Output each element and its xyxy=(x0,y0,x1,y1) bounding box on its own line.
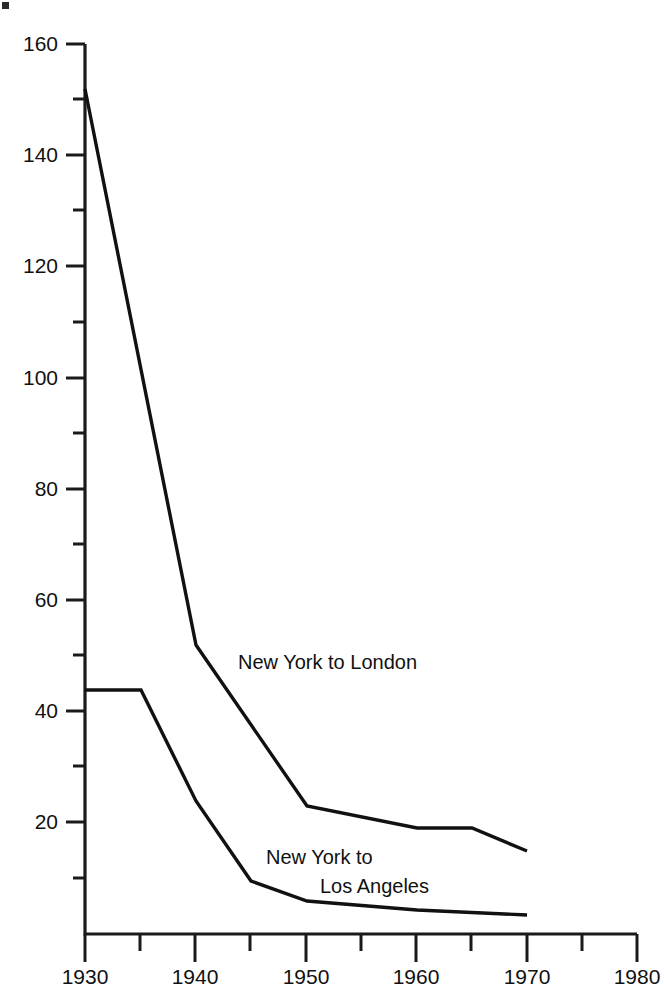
x-tick-label-1960: 1960 xyxy=(361,965,471,989)
x-tick-label-1930: 1930 xyxy=(30,965,140,989)
series-annotation-new-york-to-los-angeles-line2: Los Angeles xyxy=(320,872,429,901)
y-tick-label-20: 20 xyxy=(0,810,58,834)
x-axis-minor-ticks xyxy=(140,934,582,951)
y-tick-label-40: 40 xyxy=(0,699,58,723)
series-line-new-york-to-london xyxy=(85,89,527,851)
chart-figure: 160 140 120 100 80 60 40 20 1930 1940 19… xyxy=(0,0,664,990)
x-tick-label-1940: 1940 xyxy=(140,965,250,989)
series-annotation-new-york-to-london: New York to London xyxy=(238,648,417,677)
axis-lines xyxy=(85,44,637,934)
y-tick-label-60: 60 xyxy=(0,588,58,612)
series-annotation-new-york-to-los-angeles-line1: New York to xyxy=(266,843,373,872)
y-tick-label-80: 80 xyxy=(0,477,58,501)
x-tick-label-1980: 1980 xyxy=(582,965,664,989)
x-tick-label-1970: 1970 xyxy=(472,965,582,989)
x-tick-label-1950: 1950 xyxy=(251,965,361,989)
chart-plot-area xyxy=(0,0,664,990)
y-tick-label-120: 120 xyxy=(0,254,58,278)
y-tick-label-100: 100 xyxy=(0,366,58,390)
y-tick-label-160: 160 xyxy=(0,32,58,56)
y-tick-label-140: 140 xyxy=(0,143,58,167)
